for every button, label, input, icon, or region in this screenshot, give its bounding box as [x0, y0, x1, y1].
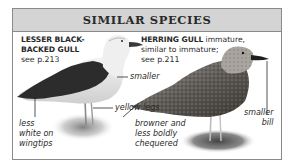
annotation-plumage: browner and less boldly chequered — [135, 119, 186, 149]
species-name-line1: LESSER BLACK- — [21, 35, 84, 44]
annotation-smaller-bill: smaller bill — [244, 108, 274, 128]
annotation-wingtips: less white on wingtips — [19, 119, 53, 149]
annotation-smaller: smaller — [130, 72, 160, 82]
page-reference: see p.213 — [21, 55, 59, 64]
page-reference: see p.211 — [141, 55, 179, 64]
lesser-black-backed-gull-label: LESSER BLACK- BACKED GULL see p.213 — [21, 35, 84, 65]
similar-species-panel: SIMILAR SPECIES — [12, 8, 282, 160]
species-name-line2: BACKED GULL — [21, 45, 79, 54]
species-desc-line2: similar to immature; — [141, 45, 218, 54]
herring-gull-label: HERRING GULL immature, similar to immatu… — [141, 35, 245, 65]
annotation-yellow-legs: yellow legs — [115, 103, 159, 113]
species-desc-line1: immature, — [203, 35, 245, 44]
species-name: HERRING GULL — [141, 35, 203, 44]
